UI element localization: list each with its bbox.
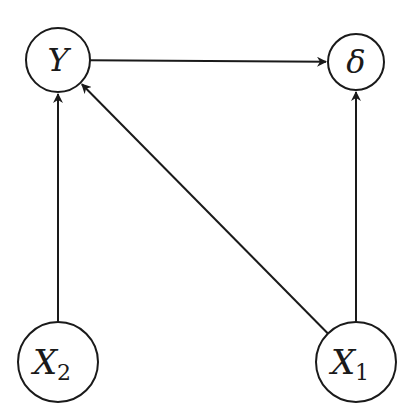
node-Y: Y	[26, 28, 90, 92]
node-delta: δ	[328, 34, 384, 90]
edge-X1-to-Y	[82, 84, 328, 333]
causal-diagram: YδX2X1	[0, 0, 411, 415]
node-label: δ	[346, 43, 365, 81]
node-label: Y	[47, 41, 71, 79]
node-X2: X2	[18, 322, 98, 402]
edge-Y-to-delta	[90, 60, 326, 62]
node-X1: X1	[316, 322, 396, 402]
